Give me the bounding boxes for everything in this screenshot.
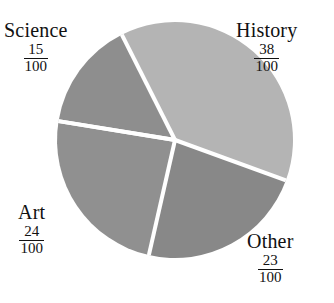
- slice-label-history-numerator: 38: [254, 42, 279, 59]
- slice-label-art-denominator: 100: [19, 241, 44, 257]
- slice-label-science-name: Science: [4, 20, 68, 40]
- pie-chart: Science 15 100 History 38 100 Art 24 100…: [0, 0, 334, 303]
- slice-label-history-name: History: [236, 20, 297, 40]
- slice-label-art-name: Art: [18, 202, 45, 222]
- slice-label-science: Science 15 100: [4, 20, 68, 75]
- slice-label-science-denominator: 100: [24, 59, 49, 75]
- slice-label-science-fraction: 15 100: [24, 42, 49, 75]
- slice-label-science-numerator: 15: [24, 42, 49, 59]
- slice-label-history-denominator: 100: [254, 59, 279, 75]
- slice-label-other-numerator: 23: [258, 253, 283, 270]
- slice-label-other-name: Other: [247, 231, 294, 251]
- slice-label-other-fraction: 23 100: [258, 253, 283, 286]
- slice-label-art-numerator: 24: [19, 224, 44, 241]
- slice-label-history-fraction: 38 100: [254, 42, 279, 75]
- slice-label-other: Other 23 100: [247, 231, 294, 286]
- slice-label-art-fraction: 24 100: [19, 224, 44, 257]
- slice-label-other-denominator: 100: [258, 270, 283, 286]
- slice-label-history: History 38 100: [236, 20, 297, 75]
- slice-label-art: Art 24 100: [18, 202, 45, 257]
